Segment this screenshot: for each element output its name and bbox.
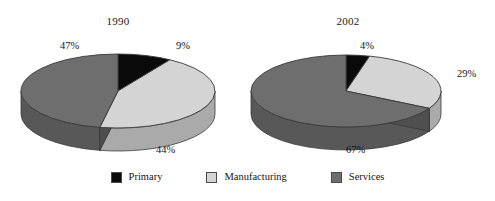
legend-item-primary: Primary <box>111 171 163 183</box>
pct-label-2002-manufacturing: 29% <box>457 68 476 80</box>
legend-item-services: Services <box>331 171 385 183</box>
legend-swatch-services <box>331 172 342 183</box>
legend-swatch-manufacturing <box>206 172 217 183</box>
chart-title-2002: 2002 <box>318 15 378 28</box>
pct-label-1990-manufacturing: 44% <box>156 144 175 156</box>
chart-title-1990: 1990 <box>88 15 148 28</box>
pct-label-2002-services: 67% <box>346 144 365 156</box>
pie-chart-1990 <box>20 55 220 155</box>
legend-swatch-primary <box>111 172 122 183</box>
legend-label-services: Services <box>349 171 385 183</box>
pie-chart-2002 <box>250 55 445 155</box>
pie-chart-figure: 1990 47% 9% 44% 2002 4% 29% 67% Primary … <box>0 0 495 201</box>
legend-label-manufacturing: Manufacturing <box>224 171 286 183</box>
legend-label-primary: Primary <box>129 171 163 183</box>
pct-label-1990-services: 47% <box>60 40 79 52</box>
legend-item-manufacturing: Manufacturing <box>206 171 286 183</box>
pct-label-2002-primary: 4% <box>360 40 374 52</box>
pct-label-1990-primary: 9% <box>176 40 190 52</box>
legend: Primary Manufacturing Services <box>0 166 495 188</box>
